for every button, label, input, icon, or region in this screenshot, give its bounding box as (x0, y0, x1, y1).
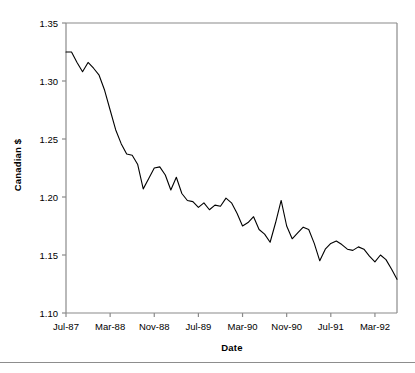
footer-divider (0, 362, 415, 363)
y-tick-label: 1.25 (40, 134, 59, 145)
x-tick-label: Nov-90 (271, 321, 302, 332)
x-tick-label: Jul-89 (185, 321, 211, 332)
x-tick-label: Mar-88 (95, 321, 125, 332)
y-tick-label: 1.20 (40, 192, 59, 203)
x-tick-label: Mar-90 (227, 321, 257, 332)
y-axis-title: Canadian $ (12, 138, 23, 191)
y-tick-label: 1.15 (40, 250, 59, 261)
x-tick-label: Mar-92 (360, 321, 390, 332)
x-tick-label: Jul-91 (318, 321, 344, 332)
x-tick-label: Nov-88 (139, 321, 170, 332)
y-tick-label: 1.10 (40, 308, 59, 319)
chart-figure: 1.101.151.201.251.301.35 Jul-87Mar-88Nov… (0, 0, 415, 373)
y-tick-label: 1.35 (40, 18, 59, 29)
chart-background (0, 0, 415, 373)
x-tick-label: Jul-87 (53, 321, 79, 332)
exchange-rate-line-chart: 1.101.151.201.251.301.35 Jul-87Mar-88Nov… (0, 0, 415, 373)
y-tick-label: 1.30 (40, 76, 59, 87)
x-axis-title: Date (221, 342, 242, 353)
